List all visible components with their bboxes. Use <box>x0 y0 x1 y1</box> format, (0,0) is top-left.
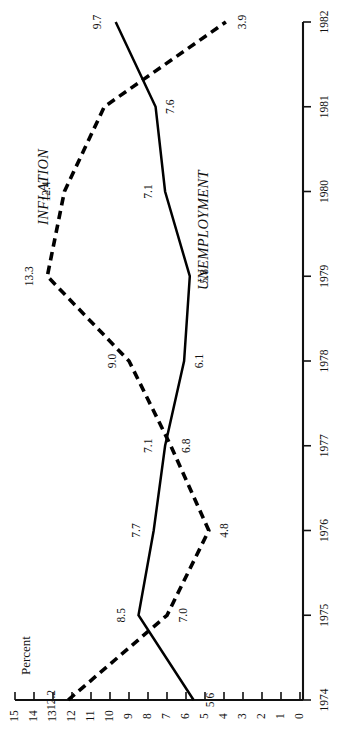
percent-tick-group <box>15 692 300 700</box>
inflation-point-label: 4.8 <box>218 523 230 538</box>
percent-tick-label: 4 <box>217 713 229 719</box>
unemployment-point-label: 8.5 <box>115 608 127 623</box>
percent-tick-label: 8 <box>141 713 153 719</box>
inflation-point-label: 12.2 <box>45 690 57 710</box>
percent-tick-label: 5 <box>198 713 210 719</box>
unemployment-point-label: 9.7 <box>91 15 103 30</box>
inflation-point-label: 13.3 <box>23 266 35 286</box>
year-tick-label: 1975 <box>318 604 330 627</box>
unemployment-point-label: 5.6 <box>204 693 216 708</box>
year-tick-label: 1974 <box>318 688 330 711</box>
percent-tick-label: 12 <box>65 710 77 722</box>
percent-tick-label: 10 <box>103 710 115 722</box>
unemployment-point-label: 7.1 <box>142 184 154 199</box>
unemployment-point-label: 7.1 <box>142 438 154 453</box>
year-axis: 197419751976197719781979198019811982 <box>303 10 330 711</box>
year-tick-group <box>303 22 311 700</box>
unemployment-series-label: UNEMPLOYMENT <box>195 169 211 290</box>
percent-tick-label: 1 <box>274 713 286 719</box>
unemployment-point-label: 7.7 <box>130 523 142 538</box>
unemployment-point-label: 7.6 <box>164 99 176 114</box>
percent-tick-label-group: 0123456789101112131415 <box>8 710 305 722</box>
percent-tick-label: 2 <box>255 713 267 719</box>
percent-tick-label: 13 <box>46 710 58 722</box>
year-tick-label: 1976 <box>318 519 330 542</box>
year-tick-label-group: 197419751976197719781979198019811982 <box>318 10 330 711</box>
inflation-series-label: INFLATION <box>35 148 51 226</box>
inflation-point-label: 9.0 <box>106 354 118 369</box>
percent-tick-label: 3 <box>236 713 248 719</box>
percent-tick-label: 11 <box>84 710 96 721</box>
percent-axis-title: Percent <box>18 636 33 675</box>
chart-canvas: 197419751976197719781979198019811982 012… <box>0 0 348 742</box>
inflation-point-labels: 12.27.04.86.89.013.312.43.9 <box>23 15 248 711</box>
inflation-point-label: 6.8 <box>180 438 192 453</box>
percent-tick-label: 9 <box>122 713 134 719</box>
rotated-line-chart: 197419751976197719781979198019811982 012… <box>0 0 348 742</box>
year-tick-label: 1977 <box>318 434 330 457</box>
year-tick-label: 1978 <box>318 349 330 372</box>
year-tick-label: 1981 <box>318 95 330 118</box>
percent-tick-label: 0 <box>293 713 305 719</box>
year-tick-label: 1979 <box>318 265 330 288</box>
year-tick-label: 1982 <box>318 10 330 33</box>
percent-tick-label: 15 <box>8 710 20 722</box>
percent-tick-label: 6 <box>179 713 191 719</box>
percent-tick-label: 14 <box>27 710 39 722</box>
inflation-point-label: 3.9 <box>236 15 248 30</box>
year-tick-label: 1980 <box>318 180 330 203</box>
inflation-point-label: 7.0 <box>177 608 189 623</box>
unemployment-point-label: 6.1 <box>193 354 205 369</box>
percent-tick-label: 7 <box>160 713 172 719</box>
